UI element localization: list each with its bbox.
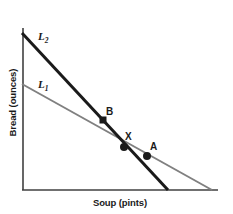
series-label-l1-subscript: 1 [45, 84, 49, 93]
series-label-l2: L2 [38, 30, 48, 45]
x-axis-title: Soup (pints) [22, 197, 218, 208]
data-point-label-x: X [125, 131, 132, 142]
data-point-marker-b [100, 117, 107, 124]
data-point-label-a: A [150, 141, 157, 152]
data-point-marker-x [120, 143, 128, 151]
series-label-l2-subscript: 2 [45, 36, 49, 45]
series-line-l2 [22, 33, 168, 190]
y-axis-title: Bread (ounces) [7, 58, 18, 148]
budget-line-chart: Bread (ounces) Soup (pints) L2 L1 B X A [0, 0, 233, 214]
data-point-marker-a [143, 152, 151, 160]
chart-plot-area [0, 0, 233, 214]
series-label-l1-text: L [38, 78, 45, 90]
series-label-l1: L1 [38, 78, 48, 93]
data-point-label-b: B [106, 106, 113, 117]
series-label-l2-text: L [38, 30, 45, 42]
